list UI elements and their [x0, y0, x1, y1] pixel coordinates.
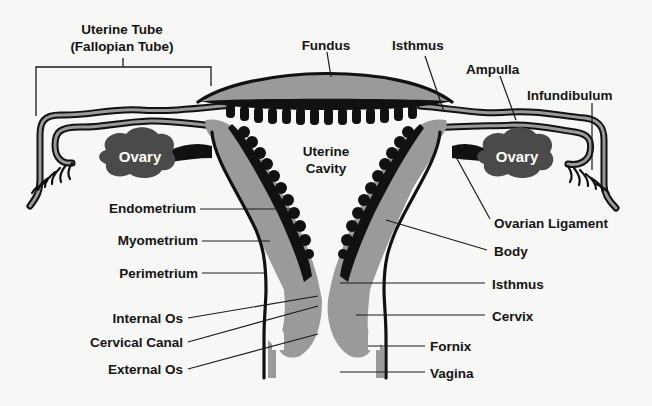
left-uterine-tube: Ovary — [30, 105, 232, 206]
cervical-canal-label: Cervical Canal — [90, 335, 183, 350]
body-label: Body — [494, 244, 528, 259]
ovary-right-label: Ovary — [496, 148, 539, 165]
vagina-label: Vagina — [430, 366, 474, 381]
uterine-tube-label-line2: (Fallopian Tube) — [70, 39, 173, 54]
internal-os-label: Internal Os — [112, 311, 183, 326]
uterus-anatomy-diagram: Ovary Ovary — [0, 0, 652, 406]
cervix-label: Cervix — [492, 309, 534, 324]
isthmus-tube-label: Isthmus — [392, 38, 444, 53]
infundibulum-label: Infundibulum — [527, 88, 612, 103]
fundus-label: Fundus — [302, 38, 351, 53]
uterine-cavity-label-line2: Cavity — [306, 161, 347, 176]
uterine-tube-label-line1: Uterine Tube — [81, 22, 163, 37]
myometrium-label: Myometrium — [118, 233, 198, 248]
fornix-label: Fornix — [430, 339, 472, 354]
uterus — [198, 73, 452, 378]
left-ovarian-ligament — [170, 144, 212, 162]
uterine-cavity-label-line1: Uterine — [303, 144, 350, 159]
right-uterine-tube: Ovary — [420, 106, 616, 208]
ovary-left-label: Ovary — [119, 148, 162, 165]
isthmus-uterus-label: Isthmus — [492, 277, 544, 292]
perimetrium-label: Perimetrium — [119, 266, 198, 281]
external-os-label: External Os — [108, 362, 183, 377]
endometrium-label: Endometrium — [109, 201, 196, 216]
ovarian-ligament-label: Ovarian Ligament — [494, 216, 609, 231]
ampulla-label: Ampulla — [466, 62, 520, 77]
